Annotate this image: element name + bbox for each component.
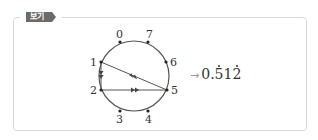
arrow-2-5-icon	[131, 88, 139, 93]
result-value: →0.512	[190, 66, 241, 82]
repeat-start-digit: 5	[215, 66, 224, 82]
middle-digit: 1	[224, 66, 233, 82]
label-1: 1	[90, 56, 97, 69]
label-4: 4	[145, 113, 152, 126]
label-6: 6	[170, 56, 177, 69]
label-5: 5	[171, 84, 178, 97]
integer-part: 0.	[201, 66, 214, 82]
arrow-right-icon: →	[190, 69, 199, 82]
circle-diagram: 0 7 6 5 4 3 2 1	[0, 0, 318, 140]
label-0: 0	[116, 28, 123, 41]
label-7: 7	[146, 28, 153, 41]
label-2: 2	[90, 84, 97, 97]
label-3: 3	[116, 113, 123, 126]
repeat-end-digit: 2	[232, 66, 241, 82]
